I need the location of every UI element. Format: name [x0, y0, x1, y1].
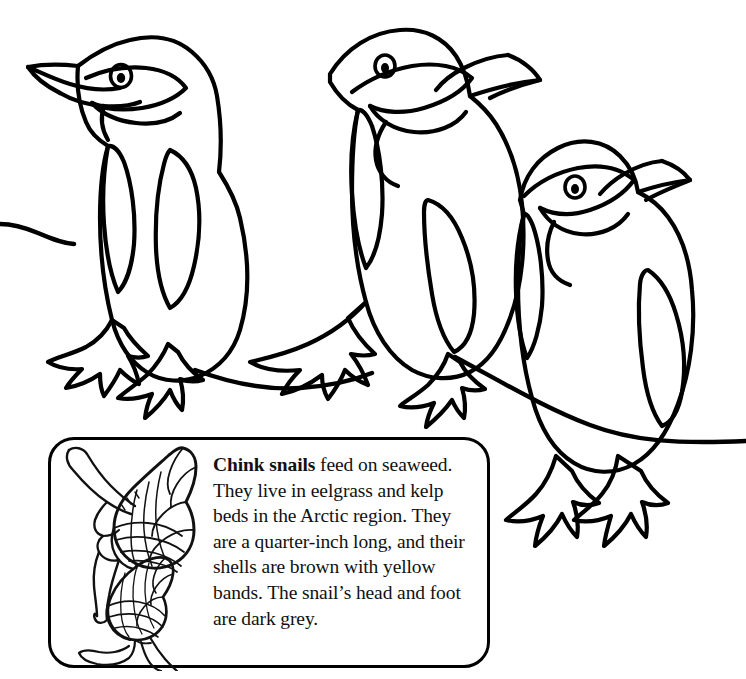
penguin-right	[506, 141, 693, 546]
chink-snails-fact-box: Chink snails feed on seaweed. They live …	[48, 437, 490, 668]
ground-line-right	[455, 357, 746, 442]
fact-box-body: feed on seaweed. They live in eelgrass a…	[213, 454, 465, 629]
penguin-left	[28, 37, 247, 418]
fact-box-text: Chink snails feed on seaweed. They live …	[211, 440, 487, 641]
snail-large	[67, 448, 196, 623]
snail-illustrations	[51, 440, 211, 665]
penguin-middle	[250, 30, 540, 427]
coloring-page: Chink snails feed on seaweed. They live …	[0, 0, 746, 679]
fact-box-heading: Chink snails	[213, 454, 315, 475]
ground-line-left	[0, 224, 74, 244]
